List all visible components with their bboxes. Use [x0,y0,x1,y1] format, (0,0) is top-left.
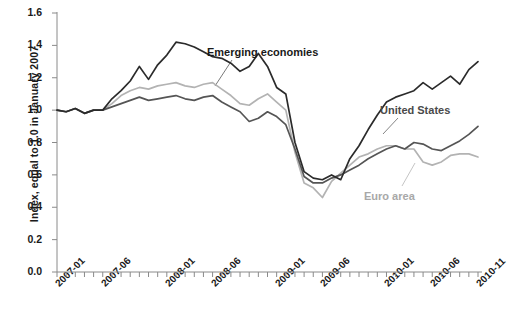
annotation-united-states: United States [380,104,450,116]
annotation-emerging-economies: Emerging economies [207,46,318,58]
series-lines [57,42,478,197]
annotation-euro-area: Euro area [364,190,415,202]
annotation-leader-lines [215,60,415,186]
